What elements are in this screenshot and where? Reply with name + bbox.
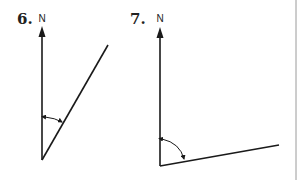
north-arrow-icon xyxy=(157,27,164,166)
figure-7: 7. N xyxy=(130,10,279,166)
figure-7-number: 7. xyxy=(130,10,146,28)
north-arrow-icon xyxy=(39,26,46,160)
angle-arc-icon xyxy=(162,139,184,159)
figure-6-number: 6. xyxy=(17,10,33,28)
bearing-line xyxy=(42,45,108,160)
figure-6-north-label: N xyxy=(39,13,46,24)
angle-arc-icon xyxy=(45,117,62,122)
bearing-diagrams: 6. N 7. N xyxy=(0,0,299,180)
figure-7-north-label: N xyxy=(157,13,164,24)
figure-6: 6. N xyxy=(17,10,108,160)
bearing-line xyxy=(160,145,279,166)
